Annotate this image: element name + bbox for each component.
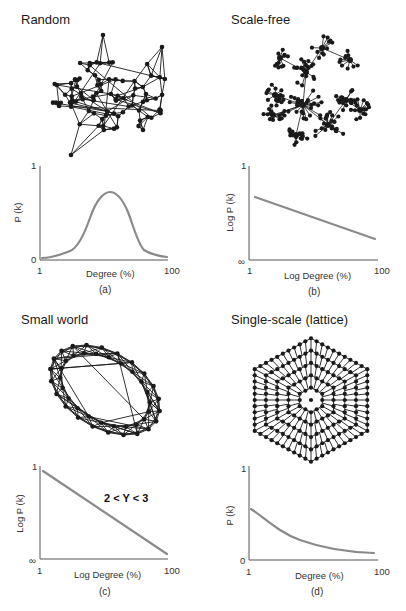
chart-d-x-right-tick: 100 bbox=[374, 566, 390, 577]
chart-b-y-bottom-tick: ∞ bbox=[238, 256, 245, 267]
chart-b-caption: (b) bbox=[308, 286, 320, 297]
chart-a-curve bbox=[42, 192, 167, 258]
chart-d-x-left-tick: 1 bbox=[246, 566, 251, 577]
chart-b-y-top-tick: 1 bbox=[241, 160, 246, 171]
chart-c-caption: (c) bbox=[99, 586, 111, 597]
chart-plots bbox=[0, 0, 406, 611]
chart-a-caption: (a) bbox=[99, 284, 111, 295]
chart-c-xlabel: Log Degree (%) bbox=[74, 569, 141, 580]
chart-d-y-top-tick: 1 bbox=[241, 463, 246, 474]
chart-b-xlabel: Log Degree (%) bbox=[284, 270, 351, 281]
chart-d-y-bottom-tick: 0 bbox=[240, 555, 245, 566]
chart-d-caption: (d) bbox=[311, 586, 323, 597]
chart-a-xlabel: Degree (%) bbox=[86, 268, 135, 279]
chart-a bbox=[40, 166, 168, 260]
chart-d-xlabel: Degree (%) bbox=[295, 570, 344, 581]
chart-a-y-bottom-tick: 0 bbox=[31, 254, 36, 265]
chart-b bbox=[249, 166, 378, 260]
chart-d-curve bbox=[251, 509, 374, 553]
chart-c-x-right-tick: 100 bbox=[164, 565, 180, 576]
chart-c-ylabel: Log P (k) bbox=[14, 494, 25, 532]
chart-a-y-top-tick: 1 bbox=[31, 160, 36, 171]
chart-c-annotation: 2 < Y < 3 bbox=[104, 492, 148, 504]
chart-c-curve bbox=[43, 471, 167, 554]
chart-a-x-right-tick: 100 bbox=[164, 265, 180, 276]
chart-b-x-right-tick: 100 bbox=[374, 265, 390, 276]
chart-b-ylabel: Log P (k) bbox=[224, 193, 235, 231]
chart-c-y-top-tick: 1 bbox=[32, 461, 37, 472]
chart-c bbox=[40, 466, 168, 559]
chart-c-y-bottom-tick: ∞ bbox=[29, 555, 36, 566]
chart-b-x-left-tick: 1 bbox=[247, 265, 252, 276]
chart-d bbox=[249, 466, 378, 560]
chart-a-x-left-tick: 1 bbox=[37, 265, 42, 276]
chart-a-ylabel: P (k) bbox=[12, 203, 23, 223]
chart-c-x-left-tick: 1 bbox=[37, 565, 42, 576]
chart-d-ylabel: P (k) bbox=[224, 506, 235, 526]
chart-b-curve bbox=[255, 197, 375, 239]
